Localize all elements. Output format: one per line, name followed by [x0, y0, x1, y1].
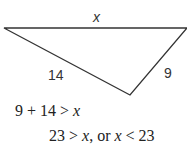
side-label-14: 14 — [48, 67, 64, 83]
eq-text: 23 > — [49, 127, 82, 144]
inequality-line-2: 23 > x, or x < 23 — [49, 127, 155, 145]
eq-var: x — [114, 127, 121, 144]
inequality-line-1: 9 + 14 > x — [15, 102, 80, 120]
side-label-9: 9 — [164, 65, 172, 81]
eq-var: x — [73, 102, 80, 119]
side-label-x: x — [92, 9, 101, 25]
eq-text: 9 + 14 > — [15, 102, 73, 119]
eq-text: , or — [89, 127, 114, 144]
triangle — [4, 28, 187, 95]
eq-text: < 23 — [122, 127, 155, 144]
